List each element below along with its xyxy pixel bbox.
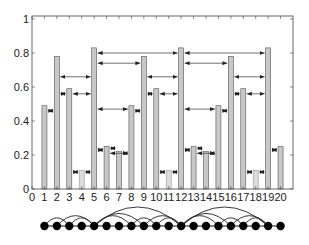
y-tick-label: 0.2 xyxy=(14,149,29,161)
bar xyxy=(67,89,72,189)
graph-node xyxy=(276,222,284,230)
x-tick-label: 9 xyxy=(141,191,147,203)
graph-node xyxy=(177,222,185,230)
bar xyxy=(216,106,221,189)
graph-node xyxy=(152,222,160,230)
chart: 0123456789101112131415161718192000.20.40… xyxy=(0,0,309,245)
graph-node xyxy=(102,222,110,230)
graph-node xyxy=(127,222,135,230)
bar xyxy=(266,48,271,189)
bar xyxy=(179,48,184,189)
bar xyxy=(117,152,122,189)
x-tick-label: 8 xyxy=(128,191,134,203)
x-tick-label: 6 xyxy=(104,191,110,203)
graph-node xyxy=(65,222,73,230)
graph-node xyxy=(202,222,210,230)
y-tick-label: 0.6 xyxy=(14,81,29,93)
bar xyxy=(104,147,109,190)
x-tick-label: 2 xyxy=(54,191,60,203)
x-tick-label: 3 xyxy=(66,191,72,203)
x-tick-label: 14 xyxy=(200,191,212,203)
y-tick-label: 0.4 xyxy=(14,115,29,127)
bar xyxy=(141,56,146,189)
x-tick-label: 7 xyxy=(116,191,122,203)
graph-node xyxy=(78,222,86,230)
x-tick-label: 1 xyxy=(41,191,47,203)
bar xyxy=(92,48,97,189)
dependency-graph xyxy=(40,207,285,230)
bars xyxy=(42,48,283,189)
bar xyxy=(228,56,233,189)
x-tick-label: 15 xyxy=(212,191,224,203)
bar xyxy=(129,106,134,189)
x-tick-label: 11 xyxy=(163,191,174,203)
y-tick-label: 0 xyxy=(23,183,29,195)
x-tick-label: 0 xyxy=(29,191,35,203)
graph-node xyxy=(264,222,272,230)
x-tick-label: 5 xyxy=(91,191,97,203)
graph-node xyxy=(227,222,235,230)
x-tick-label: 20 xyxy=(274,191,286,203)
bar xyxy=(42,106,47,189)
graph-node xyxy=(214,222,222,230)
graph-node xyxy=(189,222,197,230)
bar xyxy=(154,89,159,189)
x-tick-label: 17 xyxy=(237,191,249,203)
x-tick-label: 4 xyxy=(79,191,85,203)
graph-node xyxy=(140,222,148,230)
graph-node xyxy=(40,222,48,230)
graph-node xyxy=(239,222,247,230)
bar xyxy=(278,147,283,190)
x-tick-label: 19 xyxy=(262,191,274,203)
bar xyxy=(54,56,59,189)
x-tick-label: 13 xyxy=(187,191,199,203)
graph-node xyxy=(115,222,123,230)
x-tick-label: 10 xyxy=(150,191,162,203)
bar xyxy=(204,152,209,189)
bar xyxy=(191,147,196,190)
graph-node xyxy=(165,222,173,230)
x-tick-label: 16 xyxy=(225,191,237,203)
x-tick-label: 12 xyxy=(175,191,187,203)
graph-node xyxy=(90,222,98,230)
bar xyxy=(241,89,246,189)
y-tick-label: 0.8 xyxy=(14,47,29,59)
graph-node xyxy=(53,222,61,230)
y-tick-label: 1 xyxy=(23,13,29,25)
x-tick-label: 18 xyxy=(250,191,262,203)
graph-node xyxy=(252,222,260,230)
